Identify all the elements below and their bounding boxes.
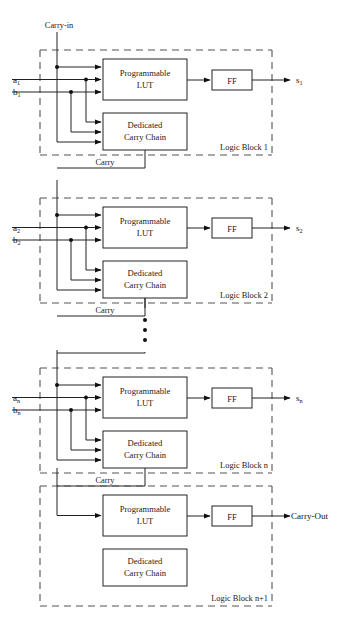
logic-block-1-carry-chain-label-2: Carry Chain	[124, 132, 167, 142]
logic-block-2-carry-tap-dot	[55, 213, 59, 217]
logic-block-n-lut-label-2: LUT	[137, 398, 154, 408]
logic-block-1-carry-chain-label-1: Dedicated	[128, 120, 164, 130]
logic-block-2-a-tap-dot	[84, 226, 88, 230]
logic-block-2-lut-label-1: Programmable	[120, 216, 171, 226]
logic-block-n-carry-tap-dot	[55, 383, 59, 387]
logic-block-n-plus-1-ff-label: FF	[227, 512, 237, 522]
logic-block-1-ff-label: FF	[227, 76, 237, 86]
figure-canvas: ProgrammableLUTDedicatedCarry ChainFFLog…	[0, 0, 349, 621]
logic-block-n-carry-chain-label-2: Carry Chain	[124, 450, 167, 460]
logic-block-n-carry-chain-label-1: Dedicated	[128, 438, 164, 448]
logic-block-2-output-label: s2	[296, 223, 303, 234]
logic-block-n-label: Logic Block n	[220, 461, 269, 470]
logic-block-n-input-a-label: an	[13, 393, 20, 404]
logic-block-n-plus-1-carry-chain-label-1: Dedicated	[128, 556, 164, 566]
logic-block-1-input-a-label: a1	[13, 75, 20, 86]
logic-block-n-lut-label-1: Programmable	[120, 386, 171, 396]
logic-block-n-a-tap-dot	[84, 396, 88, 400]
logic-block-n-input-b-label: bn	[13, 405, 21, 416]
logic-block-n-plus-1-carry-chain-label-2: Carry Chain	[124, 568, 167, 578]
block-diagram: ProgrammableLUTDedicatedCarry ChainFFLog…	[0, 0, 349, 621]
logic-block-1-input-b-label: b1	[13, 87, 21, 98]
logic-block-2-input-b-label: b2	[13, 235, 21, 246]
logic-block-n-output-label: sn	[296, 393, 303, 404]
logic-block-n-ff-label: FF	[227, 394, 237, 404]
ellipsis-dot	[143, 328, 147, 332]
logic-block-2-ff-label: FF	[227, 224, 237, 234]
carry-continuation-lower	[57, 352, 145, 353]
logic-block-n-plus-1-label: Logic Block n+1	[211, 594, 268, 603]
logic-block-1-label: Logic Block 1	[220, 143, 268, 152]
logic-block-n-plus-1-output-label: Carry-Out	[291, 511, 328, 521]
logic-block-1-b-tap-dot	[69, 90, 73, 94]
logic-block-n-carry-out-label: Carry	[95, 476, 115, 485]
logic-block-2-carry-chain-label-2: Carry Chain	[124, 280, 167, 290]
ellipsis-dot	[143, 338, 147, 342]
logic-block-1-lut-label-2: LUT	[137, 80, 154, 90]
logic-block-2-carry-out-label: Carry	[95, 306, 115, 315]
logic-block-2-lut-label-2: LUT	[137, 228, 154, 238]
ellipsis-dot	[143, 318, 147, 322]
logic-block-1-lut-label-1: Programmable	[120, 68, 171, 78]
logic-block-1-a-tap-dot	[84, 78, 88, 82]
logic-block-1-output-label: s1	[296, 75, 303, 86]
logic-block-1-carry-out-label: Carry	[95, 158, 115, 167]
logic-block-1-carry-tap-dot	[55, 65, 59, 69]
logic-block-n-plus-1-lut-label-1: Programmable	[120, 504, 171, 514]
logic-block-n-plus-1-lut-label-2: LUT	[137, 516, 154, 526]
carry-in-label: Carry-in	[45, 21, 74, 30]
logic-block-2-b-tap-dot	[69, 238, 73, 242]
logic-block-2-input-a-label: a2	[13, 223, 20, 234]
logic-block-n-b-tap-dot	[69, 408, 73, 412]
logic-block-2-label: Logic Block 2	[220, 291, 268, 300]
logic-block-2-carry-chain-label-1: Dedicated	[128, 268, 164, 278]
